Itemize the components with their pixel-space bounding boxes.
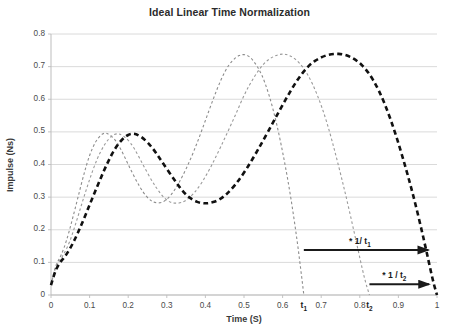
time-marker-t2: t2: [359, 300, 379, 312]
series-line-normalized-trial: [51, 54, 437, 295]
time-marker-t1: t1: [294, 300, 314, 312]
axes: [48, 34, 437, 298]
y-tick-label: 0.5: [21, 126, 45, 135]
y-tick-label: 0.6: [21, 94, 45, 103]
y-tick-label: 0.2: [21, 224, 45, 233]
x-tick-label: 0.5: [229, 301, 259, 310]
y-tick-label: 0.1: [21, 257, 45, 266]
annotation-label-scale-arrow-t2: * 1 / t2: [382, 270, 406, 282]
x-tick-label: 0.9: [383, 301, 413, 310]
series-layer: [51, 54, 437, 295]
x-tick-label: 0: [36, 301, 66, 310]
y-tick-label: 0.8: [21, 29, 45, 38]
x-axis-title: Time (S): [51, 314, 437, 324]
gridlines: [51, 34, 437, 295]
annotation-layer: [304, 250, 429, 284]
x-tick-label: 0.4: [190, 301, 220, 310]
x-tick-label: 1: [422, 301, 452, 310]
y-tick-label: 0.7: [21, 61, 45, 70]
y-axis-title: Impulse (Ns): [2, 110, 18, 220]
y-tick-label: 0.4: [21, 159, 45, 168]
x-tick-label: 0.2: [113, 301, 143, 310]
chart-title: Ideal Linear Time Normalization: [0, 6, 459, 18]
x-tick-label: 0.3: [152, 301, 182, 310]
series-line-medium-trial: [51, 54, 369, 295]
x-tick-label: 0.1: [75, 301, 105, 310]
chart-container: Ideal Linear Time Normalization Impulse …: [0, 0, 459, 333]
y-axis-title-text: Impulse (Ns): [5, 138, 15, 192]
series-line-short-trial: [51, 55, 304, 295]
y-tick-label: 0: [21, 290, 45, 299]
annotation-label-scale-arrow-t1: * 1/ t1: [349, 236, 371, 248]
y-tick-label: 0.3: [21, 192, 45, 201]
plot-area: [0, 0, 459, 333]
